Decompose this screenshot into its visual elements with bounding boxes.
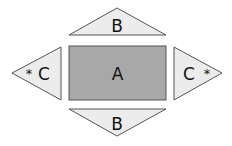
right-triangle-marker: * [204, 66, 211, 81]
net-diagram: B A * C C * B [0, 0, 232, 146]
center-rectangle: A [69, 46, 166, 100]
right-triangle: C * [174, 47, 222, 100]
left-triangle-marker: * [26, 66, 33, 81]
bottom-triangle: B [69, 109, 166, 136]
top-triangle: B [69, 8, 166, 36]
left-triangle-label: C [38, 64, 50, 84]
left-triangle: * C [12, 47, 61, 100]
right-triangle-label: C [183, 64, 195, 84]
bottom-triangle-label: B [111, 114, 123, 134]
top-triangle-label: B [111, 16, 123, 36]
center-rectangle-label: A [112, 64, 124, 84]
